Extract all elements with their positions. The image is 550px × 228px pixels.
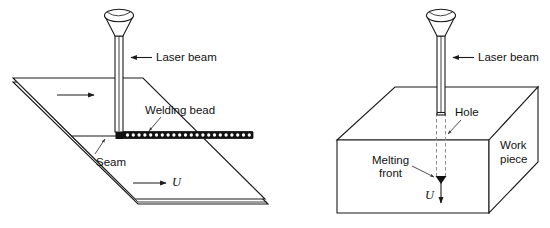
melting-front-label-line1: Melting — [372, 154, 409, 166]
laser-beam-label-left: Laser beam — [156, 51, 217, 63]
laser-beam-label-right: Laser beam — [478, 51, 539, 63]
block-front-face — [337, 140, 489, 213]
hole-label: Hole — [455, 106, 479, 118]
welding-bead-strip-icon — [122, 132, 253, 139]
work-piece-label-line1: Work — [500, 139, 527, 151]
seam-label: Seam — [96, 156, 126, 168]
left-panel-seam-welding: Laser beam Welding bead Seam U — [13, 9, 268, 204]
laser-beam-tube-right — [437, 36, 445, 115]
figure-root: Laser beam Welding bead Seam U — [0, 0, 550, 228]
laser-head-icon-right — [427, 9, 456, 36]
laser-welding-diagram: Laser beam Welding bead Seam U — [0, 0, 550, 228]
work-piece-label-line2: piece — [500, 153, 528, 165]
laser-beam-tube — [115, 36, 123, 132]
right-panel-keyhole-welding: Laser beam Hole Melting front Work piece… — [337, 9, 539, 213]
workpiece-plate — [13, 78, 268, 204]
laser-head-icon — [105, 9, 134, 36]
velocity-label-left: U — [172, 175, 182, 189]
melting-front-label-line2: front — [379, 167, 403, 179]
welding-bead-label: Welding bead — [145, 104, 215, 116]
velocity-label-right: U — [425, 188, 435, 202]
